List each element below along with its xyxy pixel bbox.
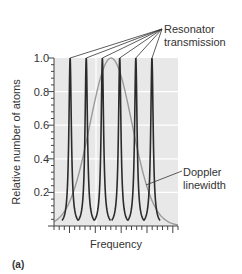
- ytick-label-1-0: 1.0: [34, 52, 49, 64]
- doppler-annotation-line2: linewidth: [183, 179, 226, 191]
- x-ticks: [54, 226, 178, 233]
- ytick-label-0-4: 0.4: [34, 153, 49, 165]
- leader-line: [86, 29, 162, 58]
- panel-label: (a): [12, 259, 24, 270]
- x-axis-label: Frequency: [90, 238, 142, 250]
- resonator-annotation-line1: Resonator: [164, 23, 215, 35]
- ytick-label-0-8: 0.8: [34, 86, 49, 98]
- leader-line: [70, 29, 162, 58]
- leader-line: [102, 29, 162, 58]
- leader-line: [120, 29, 162, 58]
- y-ticks: [48, 58, 54, 226]
- resonator-annotation-line2: transmission: [164, 36, 226, 48]
- ytick-label-0-2: 0.2: [34, 186, 49, 198]
- resonator-leader-lines: [70, 29, 162, 58]
- laser-mode-figure: 1.0 0.8 0.6 0.4 0.2 Relative number of a…: [0, 0, 242, 274]
- ytick-label-0-6: 0.6: [34, 119, 49, 131]
- y-axis-label: Relative number of atoms: [10, 79, 22, 205]
- doppler-annotation-line1: Doppler: [183, 166, 222, 178]
